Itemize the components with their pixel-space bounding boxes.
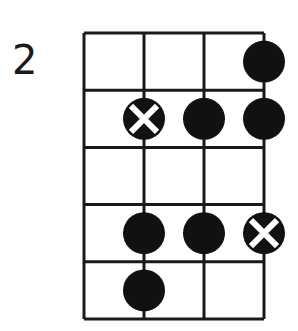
note-dot-icon [243,98,285,140]
root-note-x-icon [243,212,285,254]
fretboard-diagram [0,0,298,331]
note-dot-icon [123,212,165,254]
note-dot-icon [183,212,225,254]
note-dot-icon [123,269,165,311]
root-note-x-icon [123,98,165,140]
note-dot-icon [243,41,285,83]
note-dot-icon [183,98,225,140]
